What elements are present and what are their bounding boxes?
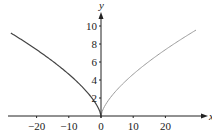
y-tick-label: 8 [92,38,98,50]
y-axis-label: y [98,0,104,11]
y-tick-label: 2 [92,92,98,104]
chart-plot: xy−20−1001020246810 [0,0,212,135]
x-tick-label: 0 [98,120,104,132]
y-tick-label: 4 [92,74,98,86]
x-axis-label: x [208,110,212,122]
y-tick-label: 10 [86,20,98,32]
y-tick-label: 6 [92,56,98,68]
x-tick-label: 20 [160,120,172,132]
series-line-1 [11,33,101,116]
series-line-2 [101,30,196,116]
x-tick-label: 10 [128,120,140,132]
x-axis-arrow-icon [201,114,208,119]
y-axis-arrow-icon [99,12,104,19]
x-tick-label: −20 [28,120,46,132]
x-tick-label: −10 [60,120,78,132]
chart-container: xy−20−1001020246810 [0,0,212,135]
